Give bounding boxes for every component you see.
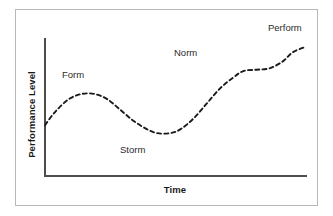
figure-canvas: Performance Level Time Form Storm Norm P… bbox=[0, 0, 333, 216]
performance-curve-path bbox=[45, 47, 306, 134]
stage-label-perform: Perform bbox=[268, 22, 302, 33]
stage-label-form: Form bbox=[62, 69, 84, 80]
stage-label-storm: Storm bbox=[120, 144, 145, 155]
stage-label-norm: Norm bbox=[174, 47, 197, 58]
